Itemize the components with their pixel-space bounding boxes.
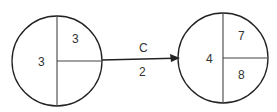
edge-activity-label: C <box>139 41 148 55</box>
node-left-top-right-value: 3 <box>72 32 79 46</box>
node-right-left-value: 4 <box>206 52 213 66</box>
node-right-top-right-value: 7 <box>238 29 245 43</box>
edge-arrow-line <box>102 58 174 60</box>
node-right: 4 7 8 <box>178 13 268 103</box>
node-left: 3 3 <box>12 16 102 106</box>
edge-c: C 2 <box>102 41 180 79</box>
network-diagram: 3 3 C 2 4 7 8 <box>0 0 277 112</box>
edge-duration-label: 2 <box>139 65 146 79</box>
node-right-bottom-right-value: 8 <box>238 68 245 82</box>
node-left-left-value: 3 <box>38 55 45 69</box>
